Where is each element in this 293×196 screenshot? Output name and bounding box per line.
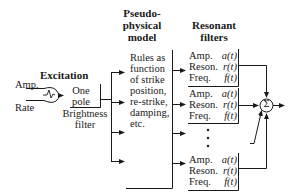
freq-label: Freq. bbox=[189, 73, 211, 84]
reson-fn: r(t) bbox=[223, 62, 237, 73]
filters-title-1: Resonant bbox=[188, 20, 240, 31]
one-pole-line2: pole bbox=[70, 97, 92, 108]
rate-label: Rate bbox=[15, 103, 34, 114]
model-title-1: Pseudo- bbox=[122, 8, 162, 19]
amp-fn: a(t) bbox=[222, 51, 237, 62]
amp-label: Amp. bbox=[189, 89, 213, 100]
one-pole-line1: One bbox=[70, 86, 92, 97]
sum-icon: Σ bbox=[261, 100, 272, 109]
freq-fn: f(t) bbox=[224, 73, 237, 84]
reson-fn: r(t) bbox=[223, 166, 237, 177]
freq-label: Freq. bbox=[189, 111, 211, 122]
reson-label: Reson. bbox=[189, 62, 218, 73]
brightness-caption: Brightness bbox=[60, 109, 110, 120]
freq-label: Freq. bbox=[189, 177, 211, 188]
filters-title-2: filters bbox=[188, 32, 240, 43]
rules-line: re-strike, bbox=[130, 97, 168, 108]
rules-line: damping, bbox=[130, 108, 169, 119]
resonant-filter-3: Amp.a(t) Reson.r(t) Freq.f(t) bbox=[187, 155, 239, 190]
excitation-title: Excitation bbox=[40, 70, 88, 81]
freq-fn: f(t) bbox=[224, 177, 237, 188]
filter-caption: filter bbox=[60, 120, 110, 131]
rules-line: position, bbox=[130, 86, 166, 97]
reson-label: Reson. bbox=[189, 100, 218, 111]
resonant-filter-1: Amp.a(t) Reson.r(t) Freq.f(t) bbox=[187, 50, 239, 86]
rules-line: function bbox=[130, 64, 165, 75]
rules-line: Rules as bbox=[130, 53, 165, 64]
freq-fn: f(t) bbox=[224, 111, 237, 122]
reson-fn: r(t) bbox=[223, 100, 237, 111]
resonant-filter-2: Amp.a(t) Reson.r(t) Freq.f(t) bbox=[187, 89, 239, 123]
rules-line: of strike bbox=[130, 75, 165, 86]
reson-label: Reson. bbox=[189, 166, 218, 177]
model-title-3: model bbox=[122, 32, 162, 43]
amp-fn: a(t) bbox=[222, 155, 237, 166]
rules-line: etc. bbox=[130, 119, 145, 130]
amp-label: Amp. bbox=[15, 80, 39, 91]
model-title-2: physical bbox=[122, 20, 162, 31]
amp-label: Amp. bbox=[189, 51, 213, 62]
amp-fn: a(t) bbox=[222, 89, 237, 100]
amp-label: Amp. bbox=[189, 155, 213, 166]
